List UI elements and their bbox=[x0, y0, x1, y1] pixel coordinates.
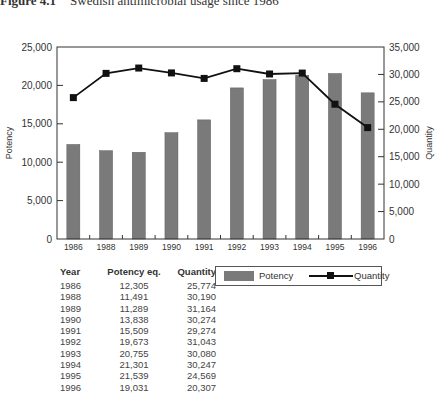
square-marker-icon bbox=[103, 70, 110, 77]
y-tick-label: 5,000 bbox=[27, 195, 52, 206]
cell-quantity: 30,190 bbox=[164, 291, 216, 302]
table-header-potency: Potency eq. bbox=[104, 266, 164, 280]
y2-tick-label: 35,000 bbox=[389, 42, 420, 53]
cell-quantity: 30,274 bbox=[164, 314, 216, 325]
cell-potency: 19,673 bbox=[104, 336, 164, 347]
legend-quantity-label: Quantity bbox=[354, 270, 389, 281]
y2-axis-label: Quantity bbox=[424, 126, 434, 160]
x-tick-label: 1994 bbox=[293, 242, 312, 252]
cell-potency: 21,539 bbox=[104, 370, 164, 381]
cell-year: 1991 bbox=[60, 325, 104, 336]
bar-1995 bbox=[328, 74, 341, 239]
cell-potency: 11,491 bbox=[104, 291, 164, 302]
square-marker-icon bbox=[327, 272, 334, 279]
table-row: 198911,28931,164 bbox=[60, 303, 216, 314]
bar-1996 bbox=[361, 93, 374, 239]
bar-1994 bbox=[296, 75, 309, 239]
bar-1991 bbox=[198, 120, 211, 239]
y2-tick-label: 30,000 bbox=[389, 69, 420, 80]
table-row: 199320,75530,080 bbox=[60, 348, 216, 359]
table-row: 198811,49130,190 bbox=[60, 291, 216, 302]
x-tick-label: 1990 bbox=[162, 242, 181, 252]
y2-tick-label: 25,000 bbox=[389, 96, 420, 107]
cell-quantity: 30,247 bbox=[164, 359, 216, 370]
cell-quantity: 31,164 bbox=[164, 303, 216, 314]
combo-chart: 05,00010,00015,00020,00025,000 05,00010,… bbox=[0, 0, 441, 260]
y-axis-label: Potency bbox=[4, 126, 14, 159]
square-marker-icon bbox=[70, 94, 77, 101]
cell-quantity: 29,274 bbox=[164, 325, 216, 336]
table-row: 199421,30130,247 bbox=[60, 359, 216, 370]
square-marker-icon bbox=[168, 69, 175, 76]
cell-year: 1992 bbox=[60, 336, 104, 347]
y-tick-label: 0 bbox=[46, 234, 52, 245]
square-marker-icon bbox=[201, 75, 208, 82]
cell-quantity: 30,080 bbox=[164, 348, 216, 359]
y2-tick-label: 20,000 bbox=[389, 124, 420, 135]
bar-1989 bbox=[132, 152, 145, 239]
y-tick-label: 20,000 bbox=[21, 80, 52, 91]
cell-year: 1996 bbox=[60, 382, 104, 393]
table-row: 199521,53924,569 bbox=[60, 370, 216, 381]
cell-potency: 21,301 bbox=[104, 359, 164, 370]
table-header-quantity: Quantity bbox=[164, 266, 216, 280]
cell-year: 1988 bbox=[60, 291, 104, 302]
x-tick-label: 1991 bbox=[195, 242, 214, 252]
chart-legend: Potency Quantity bbox=[215, 266, 382, 286]
cell-potency: 13,838 bbox=[104, 314, 164, 325]
x-tick-label: 1995 bbox=[325, 242, 344, 252]
y2-tick-label: 10,000 bbox=[389, 179, 420, 190]
table-row: 199619,03120,307 bbox=[60, 382, 216, 393]
cell-quantity: 20,307 bbox=[164, 382, 216, 393]
cell-potency: 19,031 bbox=[104, 382, 164, 393]
square-marker-icon bbox=[233, 65, 240, 72]
table-row: 199013,83830,274 bbox=[60, 314, 216, 325]
y2-tick-label: 0 bbox=[389, 234, 395, 245]
cell-quantity: 31,043 bbox=[164, 336, 216, 347]
y2-tick-label: 15,000 bbox=[389, 151, 420, 162]
square-marker-icon bbox=[299, 70, 306, 77]
cell-potency: 12,305 bbox=[104, 280, 164, 291]
cell-potency: 15,509 bbox=[104, 325, 164, 336]
x-tick-label: 1988 bbox=[97, 242, 116, 252]
table-header-year: Year bbox=[60, 266, 104, 280]
potency-swatch bbox=[224, 271, 254, 281]
legend-potency-label: Potency bbox=[259, 270, 293, 281]
table-row: 198612,30525,774 bbox=[60, 280, 216, 291]
cell-potency: 20,755 bbox=[104, 348, 164, 359]
x-tick-label: 1986 bbox=[64, 242, 83, 252]
x-tick-label: 1989 bbox=[129, 242, 148, 252]
x-tick-label: 1996 bbox=[358, 242, 377, 252]
cell-year: 1989 bbox=[60, 303, 104, 314]
bar-1992 bbox=[230, 88, 243, 239]
bar-1993 bbox=[263, 80, 276, 239]
bar-1990 bbox=[165, 133, 178, 239]
cell-quantity: 25,774 bbox=[164, 280, 216, 291]
cell-year: 1994 bbox=[60, 359, 104, 370]
bar-1986 bbox=[67, 144, 80, 239]
bar-1988 bbox=[100, 151, 113, 239]
table-row: 199219,67331,043 bbox=[60, 336, 216, 347]
cell-year: 1995 bbox=[60, 370, 104, 381]
cell-year: 1990 bbox=[60, 314, 104, 325]
square-marker-icon bbox=[331, 101, 338, 108]
y2-tick-label: 5,000 bbox=[389, 206, 414, 217]
square-marker-icon bbox=[364, 124, 371, 131]
y-tick-label: 10,000 bbox=[21, 157, 52, 168]
data-table: Year Potency eq. Quantity 198612,30525,7… bbox=[60, 266, 216, 393]
cell-year: 1986 bbox=[60, 280, 104, 291]
x-tick-label: 1993 bbox=[260, 242, 279, 252]
cell-quantity: 24,569 bbox=[164, 370, 216, 381]
y-tick-label: 25,000 bbox=[21, 42, 52, 53]
x-tick-label: 1992 bbox=[227, 242, 246, 252]
square-marker-icon bbox=[135, 65, 142, 72]
cell-year: 1993 bbox=[60, 348, 104, 359]
quantity-line bbox=[70, 65, 371, 132]
table-row: 199115,50929,274 bbox=[60, 325, 216, 336]
y-tick-label: 15,000 bbox=[21, 118, 52, 129]
square-marker-icon bbox=[266, 70, 273, 77]
cell-potency: 11,289 bbox=[104, 303, 164, 314]
